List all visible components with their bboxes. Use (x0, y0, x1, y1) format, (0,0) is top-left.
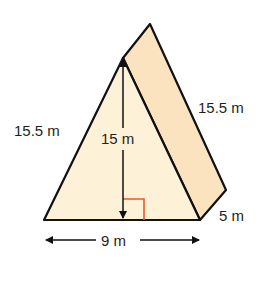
label-height: 15 m (101, 130, 134, 147)
label-right-slant: 15.5 m (198, 99, 244, 116)
label-depth: 5 m (219, 207, 244, 224)
prism-diagram: 15.5 m 15 m 15.5 m 5 m 9 m (0, 0, 267, 287)
label-base: 9 m (101, 232, 126, 249)
label-left-slant: 15.5 m (14, 122, 60, 139)
